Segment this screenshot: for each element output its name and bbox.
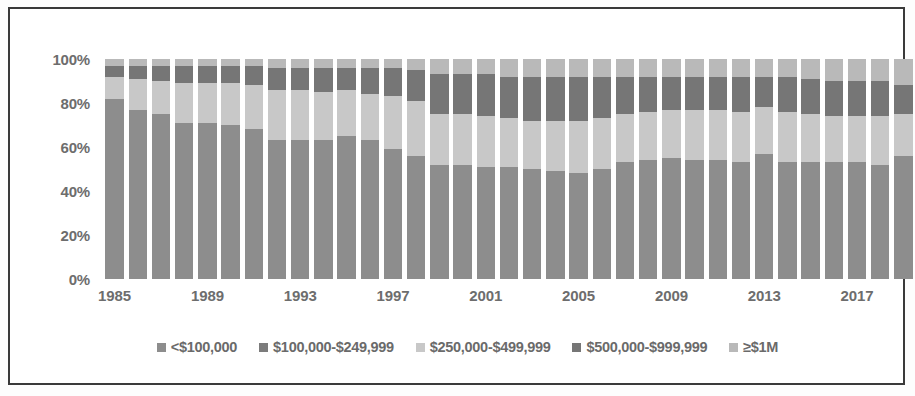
bar-segment [245,85,264,129]
bar-2005 [569,59,588,279]
bar-segment [245,66,264,86]
legend-item[interactable]: ≥$1M [729,339,778,355]
bar-segment [337,68,356,90]
legend-item[interactable]: $500,000-$999,999 [572,339,707,355]
bar-segment [291,140,310,279]
bar-segment [198,83,217,123]
bar-segment [871,165,890,279]
bar-segment [894,59,913,85]
bar-segment [453,165,472,279]
bar-segment [314,92,333,140]
bar-2003 [523,59,542,279]
bar-segment [662,158,681,279]
bar-segment [245,129,264,279]
bar-segment [105,77,124,99]
bar-1992 [268,59,287,279]
bar-2012 [732,59,751,279]
bar-segment [453,114,472,165]
bar-2010 [685,59,704,279]
legend-item-label: $100,000-$249,999 [273,339,394,355]
bar-segment [105,99,124,279]
legend-item[interactable]: $250,000-$499,999 [416,339,551,355]
bar-segment [569,77,588,121]
legend-item[interactable]: $100,000-$249,999 [259,339,394,355]
bar-2001 [477,59,496,279]
bar-segment [755,77,774,108]
bar-segment [639,160,658,279]
bar-segment [175,66,194,84]
bar-segment [384,68,403,97]
bar-segment [477,167,496,279]
bar-1996 [361,59,380,279]
bar-segment [430,74,449,114]
y-axis-tick-label: 0% [69,271,90,288]
bar-1989 [198,59,217,279]
bar-1995 [337,59,356,279]
bar-2019 [894,59,913,279]
bar-segment [801,114,820,162]
bar-segment [384,149,403,279]
bar-segment [430,114,449,165]
bar-segment [732,59,751,77]
bar-segment [361,68,380,94]
bar-segment [569,121,588,174]
x-axis-tick-label: 2009 [655,287,688,304]
bar-segment [152,114,171,279]
bar-segment [129,110,148,279]
bar-segment [546,77,565,121]
bar-segment [709,77,728,110]
bar-segment [129,79,148,110]
bar-segment [361,59,380,68]
bar-segment [639,59,658,77]
legend-swatch-icon [572,343,581,352]
bar-segment [732,112,751,163]
chart-figure: 0%20%40%60%80%100% 198519891993199720012… [0,0,915,396]
bar-segment [685,110,704,161]
bar-segment [477,59,496,74]
bar-segment [778,77,797,112]
bar-segment [639,77,658,112]
bar-segment [268,90,287,141]
bar-segment [523,169,542,279]
legend-swatch-icon [259,343,268,352]
x-axis-tick-label: 1997 [377,287,410,304]
bar-segment [105,59,124,66]
bar-2009 [662,59,681,279]
legend-item-label: <$100,000 [171,339,237,355]
bar-segment [801,59,820,79]
bar-segment [500,77,519,119]
bar-segment [152,81,171,114]
legend-item[interactable]: <$100,000 [157,339,237,355]
bar-2007 [616,59,635,279]
bar-2013 [755,59,774,279]
bar-segment [129,66,148,79]
bar-2008 [639,59,658,279]
bar-1988 [175,59,194,279]
bar-1994 [314,59,333,279]
plot-area [103,59,915,279]
bar-segment [848,116,867,162]
bar-1993 [291,59,310,279]
legend-swatch-icon [729,343,738,352]
bar-segment [221,83,240,125]
bar-segment [105,66,124,77]
bar-segment [198,123,217,279]
bar-segment [593,59,612,77]
x-axis-tick-label: 2005 [562,287,595,304]
bar-segment [825,162,844,279]
bar-segment [801,79,820,114]
bar-segment [175,83,194,123]
bar-segment [593,169,612,279]
bar-segment [616,162,635,279]
legend-swatch-icon [416,343,425,352]
bar-segment [337,90,356,136]
x-axis-tick-label: 1993 [284,287,317,304]
legend-item-label: $250,000-$499,999 [430,339,551,355]
bar-segment [825,81,844,116]
x-axis-tick-label: 1985 [98,287,131,304]
x-axis-tick-label: 2017 [841,287,874,304]
bar-segment [685,77,704,110]
bar-2006 [593,59,612,279]
bar-1997 [384,59,403,279]
bar-2004 [546,59,565,279]
